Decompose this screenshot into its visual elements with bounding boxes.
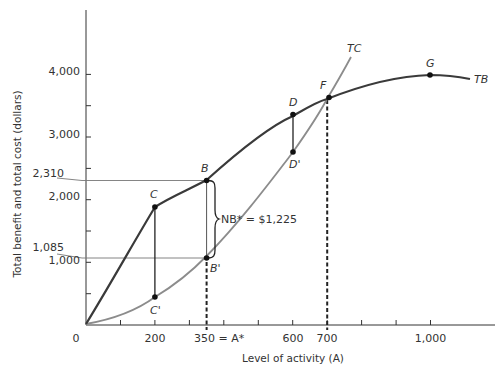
x-label-200: 200 [144, 332, 165, 345]
y-label-2000: 2,000 [49, 190, 81, 203]
y-label-1085: 1,085 [33, 241, 65, 254]
y-label-3000: 3,000 [49, 128, 81, 141]
x-ticks [121, 320, 431, 325]
x-label-origin: 0 [73, 332, 80, 345]
y-label-1000: 1,000 [49, 254, 81, 267]
point-d [290, 112, 296, 118]
label-c-prime: C' [150, 304, 161, 317]
label-b-prime: B' [210, 262, 221, 275]
y-axis-title: Total benefit and total cost (dollars) [11, 90, 23, 278]
x-label-1000: 1,000 [415, 332, 447, 345]
guide-2310 [57, 178, 206, 181]
tb-curve [86, 75, 470, 324]
y-ticks [86, 74, 91, 293]
point-b [204, 178, 210, 184]
point-g [427, 72, 433, 78]
x-label-600: 600 [283, 332, 304, 345]
point-c-prime [152, 294, 158, 300]
label-c: C [150, 188, 158, 201]
tc-curve [86, 57, 351, 324]
label-f: F [320, 79, 327, 92]
label-b: B [201, 162, 209, 175]
label-g: G [426, 57, 435, 70]
label-d: D [289, 96, 297, 109]
label-tb: TB [474, 73, 488, 86]
y-label-4000: 4,000 [49, 65, 81, 78]
benefit-cost-chart: C C' B B' D D' F G TC TB NB* = $1,225 4,… [0, 0, 503, 373]
point-c [152, 204, 158, 210]
point-d-prime [290, 149, 296, 155]
x-label-700: 700 [317, 332, 338, 345]
point-b-prime [204, 255, 210, 261]
label-tc: TC [347, 42, 362, 55]
point-f [326, 95, 332, 101]
x-axis-title: Level of activity (A) [242, 352, 344, 364]
y-label-2310: 2,310 [33, 167, 65, 180]
nb-annotation: NB* = $1,225 [221, 213, 297, 226]
nb-brace [208, 181, 219, 259]
x-label-350: 350 = A* [194, 332, 245, 345]
label-d-prime: D' [289, 158, 301, 171]
